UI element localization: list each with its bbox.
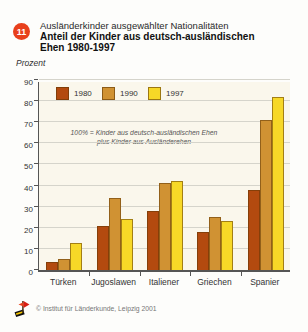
grid-line xyxy=(39,142,290,143)
grid-line xyxy=(39,100,290,101)
x-category-label-Spanier: Spanier xyxy=(240,277,290,287)
y-axis-tick-labels: 0102030405060708090 xyxy=(0,82,33,274)
figure-number-badge: 11 xyxy=(13,23,30,40)
legend-item-1997: 1997 xyxy=(148,87,184,100)
copyright-text: © Institut für Länderkunde, Leipzig 2001 xyxy=(36,305,157,312)
figure-title-line1: Anteil der Kinder aus deutsch-ausländisc… xyxy=(40,31,300,42)
y-tick-label: 90 xyxy=(0,78,33,87)
x-category-label-Jugoslawen: Jugoslawen xyxy=(88,277,138,287)
chart-annotation-line1: 100% = Kinder aus deutsch-ausländischen … xyxy=(49,128,239,137)
bar-Italiener-1980 xyxy=(147,211,159,270)
y-tick-mark xyxy=(34,227,38,228)
bar-Türken-1990 xyxy=(58,259,70,270)
x-axis-category-labels: TürkenJugoslawenItalienerGriechenSpanier xyxy=(38,277,290,289)
y-tick-mark xyxy=(34,269,38,270)
bar-Spanier-1990 xyxy=(260,120,272,270)
x-category-label-Italiener: Italiener xyxy=(139,277,189,287)
x-tick-mark xyxy=(89,272,90,276)
legend-item-1990: 1990 xyxy=(102,87,138,100)
legend-label-1980: 1980 xyxy=(74,89,92,98)
institute-logo-icon xyxy=(12,299,30,318)
y-tick-label: 0 xyxy=(0,268,33,277)
y-tick-mark xyxy=(34,100,38,101)
y-tick-label: 10 xyxy=(0,247,33,256)
y-tick-label: 40 xyxy=(0,184,33,193)
grid-line xyxy=(39,121,290,122)
y-tick-mark xyxy=(34,121,38,122)
bar-Türken-1997 xyxy=(70,243,82,270)
legend-label-1990: 1990 xyxy=(120,89,138,98)
y-tick-mark xyxy=(34,163,38,164)
bar-Spanier-1997 xyxy=(272,97,284,270)
y-tick-mark xyxy=(34,79,38,80)
y-tick-mark xyxy=(34,185,38,186)
y-tick-mark xyxy=(34,206,38,207)
x-tick-mark xyxy=(241,272,242,276)
y-tick-label: 80 xyxy=(0,99,33,108)
x-category-label-Türken: Türken xyxy=(38,277,88,287)
bar-chart-plot-area: 198019901997 100% = Kinder aus deutsch-a… xyxy=(38,82,290,272)
legend-label-1997: 1997 xyxy=(166,89,184,98)
y-axis-unit-label: Prozent xyxy=(16,58,45,68)
y-tick-label: 30 xyxy=(0,205,33,214)
figure-subtitle: Ausländerkinder ausgewählter Nationalitä… xyxy=(40,20,300,31)
legend-swatch-1990 xyxy=(102,87,115,100)
bar-Griechen-1980 xyxy=(197,232,209,270)
bar-Jugoslawen-1997 xyxy=(121,219,133,270)
bar-Jugoslawen-1990 xyxy=(109,198,121,270)
x-tick-mark xyxy=(190,272,191,276)
grid-line xyxy=(39,163,290,164)
y-tick-label: 20 xyxy=(0,226,33,235)
x-category-label-Griechen: Griechen xyxy=(189,277,239,287)
figure-title-block: Ausländerkinder ausgewählter Nationalitä… xyxy=(40,20,300,53)
y-tick-label: 60 xyxy=(0,141,33,150)
bar-Spanier-1980 xyxy=(248,190,260,270)
y-tick-mark xyxy=(34,248,38,249)
bar-Italiener-1997 xyxy=(171,181,183,270)
legend-swatch-1980 xyxy=(56,87,69,100)
bar-Jugoslawen-1980 xyxy=(97,226,109,270)
grid-line xyxy=(39,79,290,80)
figure-title-line2: Ehen 1980-1997 xyxy=(40,42,300,53)
bar-Griechen-1997 xyxy=(221,221,233,270)
bar-Türken-1980 xyxy=(46,262,58,270)
bar-Italiener-1990 xyxy=(159,183,171,270)
legend-item-1980: 1980 xyxy=(56,87,92,100)
figure-card: 11 Ausländerkinder ausgewählter National… xyxy=(0,0,308,332)
y-tick-label: 70 xyxy=(0,120,33,129)
y-tick-mark xyxy=(34,142,38,143)
x-tick-mark xyxy=(140,272,141,276)
y-tick-label: 50 xyxy=(0,162,33,171)
bar-Griechen-1990 xyxy=(209,217,221,270)
legend-swatch-1997 xyxy=(148,87,161,100)
